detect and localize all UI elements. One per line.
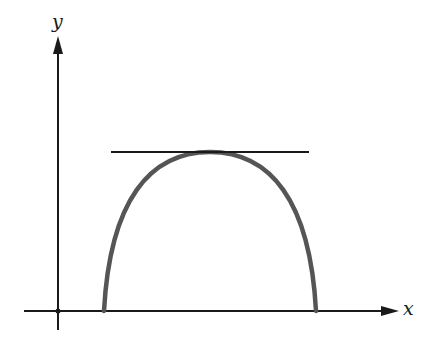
origin-point (56, 309, 61, 314)
y-axis-label: y (52, 10, 63, 32)
diagram-svg (0, 0, 434, 353)
x-axis-label: x (403, 297, 414, 319)
y-axis-arrow-icon (53, 36, 63, 54)
diagram-canvas: y x (0, 0, 434, 353)
arch-curve (104, 152, 316, 311)
x-axis-arrow-icon (381, 306, 399, 316)
